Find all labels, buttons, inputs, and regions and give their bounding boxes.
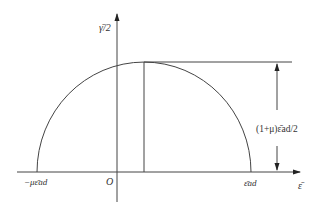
mohr-circle-diagram: γ̄/2 ε̄ O −με̄ad ε̄ad (1+μ)ε̄ad/2 [0, 0, 319, 210]
right-intercept-label: ε̄ad [244, 178, 257, 188]
y-axis-label: γ̄/2 [99, 22, 111, 33]
left-intercept-label: −με̄ad [24, 177, 48, 187]
dimension-label: (1+μ)ε̄ad/2 [256, 124, 298, 135]
diagram-canvas: γ̄/2 ε̄ O −με̄ad ε̄ad (1+μ)ε̄ad/2 [0, 0, 319, 210]
x-axis-label: ε̄ [298, 180, 305, 191]
origin-label: O [106, 176, 113, 187]
